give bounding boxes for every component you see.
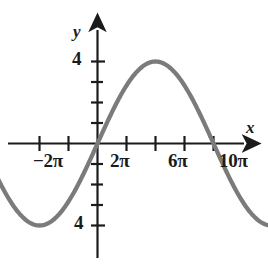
y-axis-label: y xyxy=(73,22,81,42)
coordinate-plane-svg xyxy=(0,0,268,266)
x-axis-label: x xyxy=(246,118,255,138)
x-tick-label-2pi: 2π xyxy=(110,150,129,172)
y-tick-label-4-top: 4 xyxy=(72,48,82,70)
y-tick-label-4-bottom: 4 xyxy=(74,212,84,234)
x-tick-label-neg2pi: −2π xyxy=(33,150,63,172)
graph-figure: [data-name="sine-curve"] path, [data-nam… xyxy=(0,0,268,266)
x-tick-label-6pi: 6π xyxy=(168,150,187,172)
x-tick-label-10pi: 10π xyxy=(219,150,248,172)
